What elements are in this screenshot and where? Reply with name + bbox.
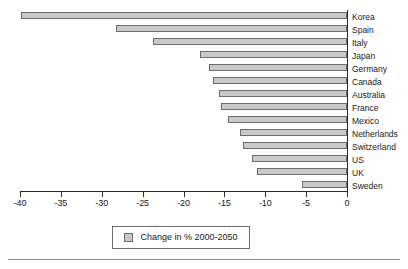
bar-us (252, 155, 347, 162)
x-tick (20, 192, 21, 197)
bar-row (20, 62, 347, 75)
x-tick (61, 192, 62, 197)
bar-france (221, 103, 347, 110)
category-label-germany: Germany (352, 64, 387, 74)
category-label-france: France (352, 103, 378, 113)
legend-swatch-icon (124, 233, 133, 242)
x-tick-label: -20 (177, 198, 190, 209)
bar-switzerland (243, 142, 347, 149)
legend-label: Change in % 2000-2050 (140, 232, 237, 243)
bar-canada (213, 77, 347, 84)
bar-row (20, 127, 347, 140)
bar-sweden (302, 181, 347, 188)
bar-japan (200, 51, 347, 58)
category-label-mexico: Mexico (352, 116, 379, 126)
bar-row (20, 10, 347, 23)
bar-row (20, 153, 347, 166)
bar-row (20, 75, 347, 88)
category-label-uk: UK (352, 168, 364, 178)
x-tick-label: 0 (345, 198, 350, 209)
x-tick (265, 192, 266, 197)
category-label-italy: Italy (352, 38, 368, 48)
category-label-australia: Australia (352, 90, 385, 100)
bar-row (20, 114, 347, 127)
bar-italy (153, 38, 347, 45)
category-label-japan: Japan (352, 51, 375, 61)
bar-row (20, 23, 347, 36)
x-tick-label: -40 (14, 198, 27, 209)
category-label-us: US (352, 155, 364, 165)
bar-row (20, 36, 347, 49)
category-label-canada: Canada (352, 77, 382, 87)
bar-spain (116, 25, 347, 32)
x-tick-label: -25 (136, 198, 149, 209)
category-label-switzerland: Switzerland (352, 142, 396, 152)
x-tick (347, 192, 348, 197)
category-label-netherlands: Netherlands (352, 129, 398, 139)
bar-row (20, 49, 347, 62)
bar-australia (219, 90, 347, 97)
x-tick (306, 192, 307, 197)
x-tick-label: -5 (302, 198, 310, 209)
bar-row (20, 101, 347, 114)
chart-legend: Change in % 2000-2050 (112, 226, 250, 249)
x-tick-label: -35 (55, 198, 68, 209)
zero-axis-line (347, 10, 348, 192)
bar-row (20, 166, 347, 179)
x-tick-label: -30 (95, 198, 108, 209)
bottom-divider-rule (8, 259, 400, 260)
bar-chart-figure: -40-35-30-25-20-15-10-50 KoreaSpainItaly… (0, 0, 408, 269)
x-tick (143, 192, 144, 197)
category-label-spain: Spain (352, 25, 374, 35)
x-tick (184, 192, 185, 197)
x-tick (102, 192, 103, 197)
plot-area (20, 10, 347, 192)
category-label-korea: Korea (352, 12, 375, 22)
bar-mexico (228, 116, 347, 123)
x-tick-label: -15 (218, 198, 231, 209)
bar-row (20, 88, 347, 101)
x-tick-label: -10 (259, 198, 272, 209)
bar-row (20, 140, 347, 153)
bar-germany (209, 64, 347, 71)
category-axis-labels: KoreaSpainItalyJapanGermanyCanadaAustral… (352, 10, 408, 192)
bar-korea (21, 12, 347, 19)
x-tick (224, 192, 225, 197)
bar-netherlands (240, 129, 347, 136)
bar-uk (257, 168, 347, 175)
category-label-sweden: Sweden (352, 181, 383, 191)
